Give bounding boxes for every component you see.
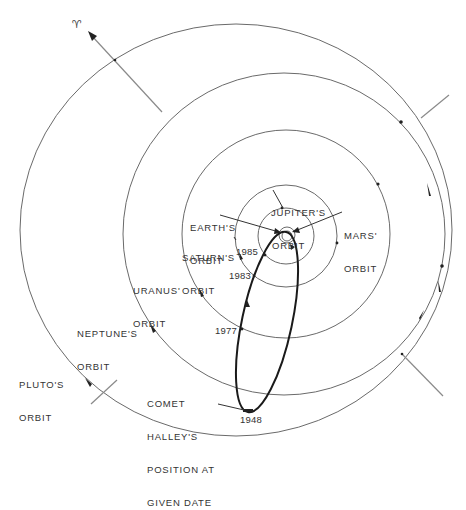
vernal-equinox-symbol: ♈: [72, 18, 82, 31]
comet-label-line1: COMET: [147, 398, 215, 409]
uranus-orbit-label: URANUS' ORBIT: [133, 263, 181, 340]
neptune-label-line2: ORBIT: [77, 361, 138, 372]
saturn-label-line1: SATURN'S: [182, 252, 235, 263]
mars-orbit-label: MARS' ORBIT: [344, 208, 377, 285]
comet-position-label: COMET HALLEY'S POSITION AT GIVEN DATE: [147, 376, 215, 510]
neptune-right-arrow-icon: [438, 280, 441, 292]
pluto-right-arrow-icon: [427, 183, 431, 196]
year-label-1983: 1983: [229, 270, 251, 281]
comet-label-line3: POSITION AT: [147, 464, 215, 475]
mars-label-line2: ORBIT: [344, 263, 377, 274]
pluto-label-line1: PLUTO'S: [19, 379, 64, 390]
pluto-label-line2: ORBIT: [19, 412, 64, 423]
tick-upper-right: [421, 95, 449, 118]
comet-marker-1985: [264, 254, 267, 257]
jupiter-orbit-label: JUPITER'S ORBIT: [271, 185, 326, 262]
saturn-orbit-label: SATURN'S ORBIT: [182, 230, 235, 307]
neptune-marker-icon: [399, 120, 403, 124]
jupiter-label-line1: JUPITER'S: [271, 207, 326, 218]
year-label-1977: 1977: [215, 325, 237, 336]
tick-lower-right: [402, 354, 443, 396]
pluto-orbit-label: PLUTO'S ORBIT: [19, 357, 64, 434]
neptune-marker-right-icon: [440, 264, 444, 268]
neptune-orbit-label: NEPTUNE'S ORBIT: [77, 306, 138, 383]
saturn-marker-icon: [336, 242, 339, 245]
tick-lower-left: [91, 380, 117, 404]
uranus-label-line2: ORBIT: [133, 318, 181, 329]
uranus-marker-icon: [376, 182, 379, 185]
year-label-1985: 1985: [236, 246, 258, 257]
uranus-label-line1: URANUS': [133, 285, 181, 296]
comet-marker-1977: [241, 328, 244, 331]
node-dot-lower-right: [401, 353, 404, 356]
jupiter-label-line2: ORBIT: [271, 240, 326, 251]
comet-marker-1983: [253, 275, 256, 278]
comet-label-line2: HALLEY'S: [147, 431, 215, 442]
saturn-label-line2: ORBIT: [182, 285, 235, 296]
neptune-label-line1: NEPTUNE'S: [77, 328, 138, 339]
mars-label-line1: MARS': [344, 230, 377, 241]
vernal-equinox-line: [92, 36, 162, 112]
comet-marker-1948: [243, 409, 253, 412]
year-label-1948: 1948: [240, 414, 262, 425]
comet-label-line4: GIVEN DATE: [147, 497, 215, 508]
pluto-aries-crossing-dot: [114, 59, 117, 62]
